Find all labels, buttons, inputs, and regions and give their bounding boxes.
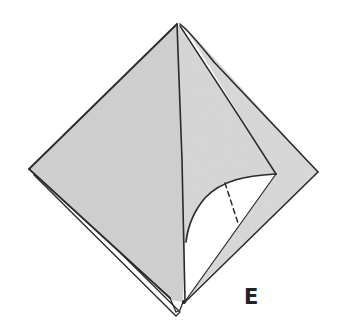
step-label: E [244, 285, 258, 309]
diagram-drawing [0, 0, 348, 330]
bottom-point-mark [182, 300, 185, 303]
paper-texture [29, 24, 318, 302]
origami-diagram: E [0, 0, 348, 330]
